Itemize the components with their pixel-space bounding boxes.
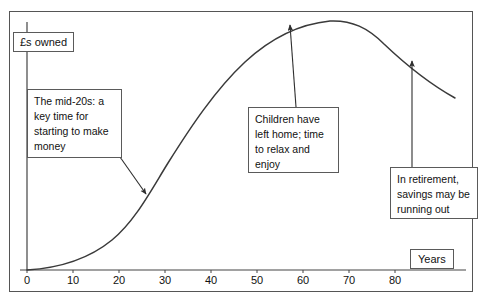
x-tick-label-50: 50 — [245, 274, 269, 286]
x-tick-label-80: 80 — [383, 274, 407, 286]
x-tick-label-40: 40 — [199, 274, 223, 286]
annotation-leader-children — [290, 25, 296, 107]
chart-figure: £s owned Years The mid-20s: a key time f… — [0, 0, 484, 305]
x-tick-label-70: 70 — [337, 274, 361, 286]
annotation-leader-mid20s — [120, 157, 146, 194]
annotation-box-children-left-home: Children have left home; time to relax a… — [248, 107, 339, 173]
y-axis-label: £s owned — [13, 32, 74, 52]
x-tick-label-60: 60 — [291, 274, 315, 286]
x-tick-label-20: 20 — [107, 274, 131, 286]
x-tick-label-10: 10 — [61, 274, 85, 286]
annotation-box-mid-20s: The mid-20s: a key time for starting to … — [27, 89, 122, 158]
x-axis-label: Years — [410, 249, 454, 269]
annotation-box-in-retirement: In retirement, savings may be running ou… — [390, 167, 478, 219]
x-tick-label-30: 30 — [153, 274, 177, 286]
x-tick-label-0: 0 — [15, 274, 39, 286]
